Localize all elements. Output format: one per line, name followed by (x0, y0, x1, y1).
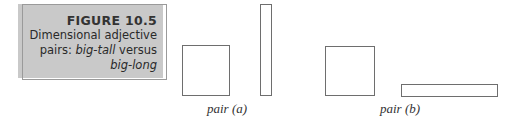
caption-line-2-suffix: versus (115, 43, 157, 57)
caption-term-big-long: big-long (110, 58, 157, 72)
pair-a-square (182, 45, 230, 96)
caption-line-1: Dimensional adjective (17, 28, 157, 43)
caption-line-2-prefix: pairs: (40, 43, 76, 57)
caption-line-2: pairs: big-tall versus (17, 43, 157, 58)
figure-caption: FIGURE 10.5 Dimensional adjective pairs:… (17, 13, 157, 73)
pair-b-long-rectangle (401, 84, 498, 97)
pair-a-label: pair (a) (207, 101, 247, 117)
figure-number: FIGURE 10.5 (17, 13, 157, 28)
figure-caption-box: FIGURE 10.5 Dimensional adjective pairs:… (18, 4, 163, 78)
pair-a-tall-rectangle (260, 4, 272, 96)
pair-b-label: pair (b) (380, 101, 420, 117)
caption-line-3: big-long (17, 58, 157, 73)
caption-term-big-tall: big-tall (76, 43, 116, 57)
pair-b-square (325, 46, 375, 96)
